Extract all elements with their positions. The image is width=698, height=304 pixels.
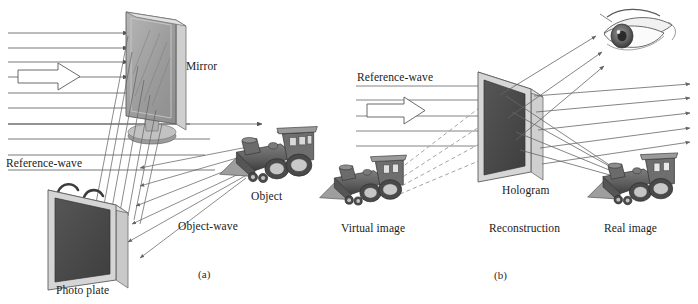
object-label: Object [251,190,282,202]
reference-wave-block-arrow-b [367,97,425,124]
transmitted-rays [534,84,690,164]
virtual-image-locomotive [320,155,407,205]
photo-plate-label: Photo plate [56,284,109,296]
panel-b-caption: (b) [494,269,507,281]
reference-wave-label-a: Reference-wave [6,157,82,169]
virtual-image-label: Virtual image [341,222,405,234]
real-image-locomotive [588,153,678,205]
real-image-label: Real image [604,222,657,234]
photo-plate-panel [48,184,128,290]
observer-eye [600,9,675,50]
holography-figure: Mirror Reference-wave Object Object-wave… [0,0,698,304]
panel-b [320,9,690,205]
panel-a-caption: (a) [198,268,211,280]
object-wave-label: Object-wave [178,220,238,232]
locomotive-object [220,126,318,182]
reference-wave-block-arrow [18,63,80,90]
hologram-label: Hologram [502,184,549,196]
panel-a [8,12,317,290]
mirror-panel [126,12,186,130]
reconstruction-label: Reconstruction [489,222,560,234]
reference-wave-label-b: Reference-wave [357,71,433,83]
figure-canvas [0,0,698,304]
mirror-label: Mirror [186,60,217,72]
